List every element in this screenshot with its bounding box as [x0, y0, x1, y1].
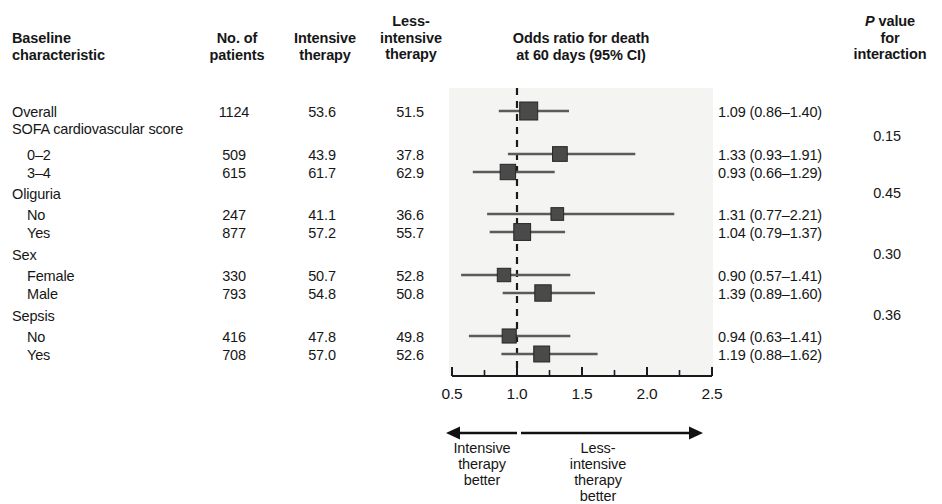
arrow-left-head [446, 427, 460, 440]
axis-tick-label: 1.5 [559, 385, 605, 403]
point-estimate-marker [551, 208, 564, 221]
arrow-right-head [689, 427, 703, 440]
point-estimate-marker [500, 164, 515, 179]
axis-tick-label: 2.5 [689, 385, 735, 403]
point-estimate-marker [502, 329, 516, 343]
point-estimate-marker [553, 147, 568, 162]
annotation-intensive-better: Intensive therapy better [440, 440, 524, 488]
axis-tick-label: 1.0 [494, 385, 540, 403]
point-estimate-marker [534, 346, 550, 362]
axis-tick-label: 2.0 [624, 385, 670, 403]
annotation-less-intensive-better: Less- intensive therapy better [551, 440, 645, 504]
point-estimate-marker [520, 102, 538, 120]
point-estimate-marker [497, 268, 510, 281]
point-estimate-marker [514, 224, 531, 241]
point-estimate-marker [535, 285, 551, 301]
axis-tick-label: 0.5 [429, 385, 475, 403]
